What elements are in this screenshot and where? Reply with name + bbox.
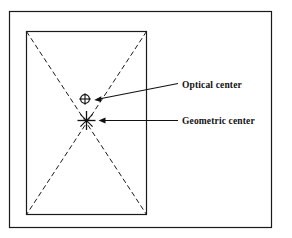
figure-container: Optical center Geometric center <box>0 0 292 238</box>
optical-center-label: Optical center <box>182 80 243 90</box>
geometric-center-label: Geometric center <box>182 116 255 126</box>
center-comparison-diagram: Optical center Geometric center <box>0 0 292 238</box>
